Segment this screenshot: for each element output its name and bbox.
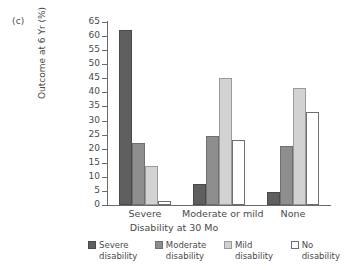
y-tick-label: 50: [60, 59, 100, 68]
bar: [158, 201, 171, 205]
legend-item[interactable]: Moderatedisability: [155, 240, 206, 261]
legend-label-line1: Moderate: [166, 240, 206, 251]
bar: [232, 140, 245, 205]
y-tick-label: 0: [60, 200, 100, 209]
legend-label-line1: No: [302, 240, 340, 251]
panel-label: (c): [12, 16, 25, 26]
legend-label-line2: disability: [302, 251, 340, 262]
legend-label: Severedisability: [99, 240, 137, 261]
legend-item[interactable]: Milddisability: [224, 240, 273, 261]
y-tick-label: 25: [60, 130, 100, 139]
bar: [306, 112, 319, 205]
figure-panel-c: (c) Outcome at 6 Yr (%) 0510152025303540…: [0, 0, 348, 276]
y-tick-label: 35: [60, 101, 100, 110]
y-tick-label: 5: [60, 186, 100, 195]
legend-swatch-icon: [224, 241, 232, 249]
x-axis-line: [107, 205, 331, 206]
y-tick-label: 10: [60, 172, 100, 181]
bar: [132, 143, 145, 205]
y-axis-tick-labels: 05101520253035404550556065: [56, 0, 100, 276]
legend-label-line1: Severe: [99, 240, 137, 251]
x-category-label: Severe: [108, 208, 182, 219]
legend-label-line2: disability: [99, 251, 137, 262]
x-axis-title: Disability at 30 Mo: [0, 222, 348, 233]
legend-label: Nodisability: [302, 240, 340, 261]
y-tick-label: 30: [60, 116, 100, 125]
legend-swatch-icon: [155, 241, 163, 249]
legend-label: Moderatedisability: [166, 240, 206, 261]
plot-area: [108, 22, 330, 205]
legend-item[interactable]: Nodisability: [291, 240, 340, 261]
legend-item[interactable]: Severedisability: [88, 240, 137, 261]
y-tick-label: 40: [60, 87, 100, 96]
y-tick-label: 65: [60, 17, 100, 26]
y-axis-title: Outcome at 6 Yr (%): [37, 0, 47, 143]
legend-swatch-icon: [88, 241, 96, 249]
legend-label-line2: disability: [235, 251, 273, 262]
legend-label-line2: disability: [166, 251, 206, 262]
y-tick-label: 15: [60, 158, 100, 167]
bar-group: [193, 22, 245, 205]
bar: [293, 88, 306, 205]
bar: [145, 166, 158, 205]
y-tick-label: 20: [60, 144, 100, 153]
legend-label-line1: Mild: [235, 240, 273, 251]
bar: [280, 146, 293, 205]
y-tick-label: 45: [60, 73, 100, 82]
bar-group: [267, 22, 319, 205]
bar: [219, 78, 232, 205]
x-category-label: None: [256, 208, 330, 219]
bar: [119, 30, 132, 205]
x-category-label: Moderate or mild: [182, 208, 256, 219]
legend-label: Milddisability: [235, 240, 273, 261]
chart-legend: SeveredisabilityModeratedisabilityMilddi…: [88, 240, 340, 270]
legend-swatch-icon: [291, 241, 299, 249]
y-tick-label: 60: [60, 31, 100, 40]
y-tick-label: 55: [60, 45, 100, 54]
bar-group: [119, 22, 171, 205]
bar: [267, 192, 280, 205]
bar: [193, 184, 206, 205]
bar: [206, 136, 219, 205]
